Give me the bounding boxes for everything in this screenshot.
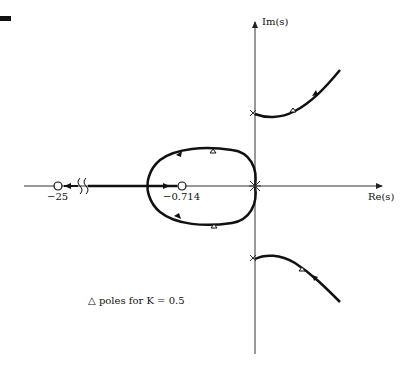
arrow-icon <box>174 213 181 219</box>
real-axis-label: Re(s) <box>368 191 394 202</box>
root-locus-plot <box>0 0 414 372</box>
triangle-icon <box>290 108 296 112</box>
zero-label-neg25: −25 <box>47 191 68 202</box>
k-markers <box>210 108 305 271</box>
legend-text: poles for K = 0.5 <box>99 295 185 306</box>
axes <box>24 22 382 354</box>
upper-branch-locus <box>255 70 340 117</box>
arrow-icon <box>312 90 318 96</box>
lower-branch-locus <box>255 256 340 302</box>
zero-marker-neg25 <box>54 182 62 190</box>
triangle-icon: △ <box>88 295 96 306</box>
zero-label-neg0714: −0.714 <box>163 191 200 202</box>
arrow-right-icon <box>163 183 170 189</box>
imag-axis-label: Im(s) <box>262 16 288 27</box>
legend: △ poles for K = 0.5 <box>88 295 185 306</box>
arrow-left-icon <box>64 183 71 189</box>
triangle-icon <box>210 149 216 153</box>
double-pole-origin-icon <box>249 180 261 192</box>
zero-marker-neg0714 <box>178 182 186 190</box>
